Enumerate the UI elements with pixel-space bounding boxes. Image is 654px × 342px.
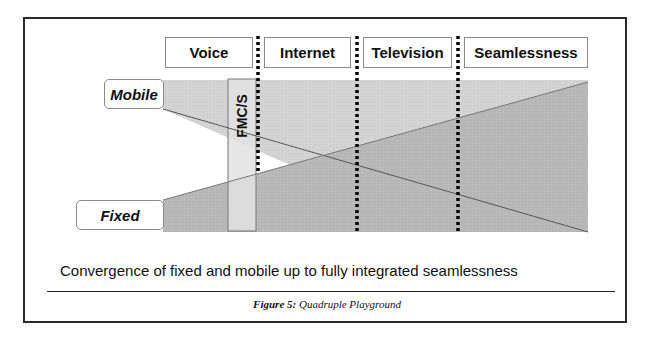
column-header-voice: Voice	[165, 37, 253, 68]
column-header-television: Television	[363, 37, 452, 68]
diagram-caption: Convergence of fixed and mobile up to fu…	[60, 262, 518, 279]
column-header-seamlessness: Seamlessness	[464, 37, 588, 68]
column-header-internet: Internet	[264, 37, 351, 68]
fmc-label: FMC/S	[230, 82, 254, 150]
figure-label: Figure 5: Quadruple Playground	[0, 298, 654, 310]
figure-title: Quadruple Playground	[299, 298, 401, 310]
fmc-text: FMC/S	[234, 94, 250, 138]
row-label-fixed: Fixed	[76, 200, 164, 230]
caption-rule	[47, 291, 615, 292]
row-label-mobile: Mobile	[104, 79, 164, 109]
figure-number: Figure 5:	[253, 298, 296, 310]
